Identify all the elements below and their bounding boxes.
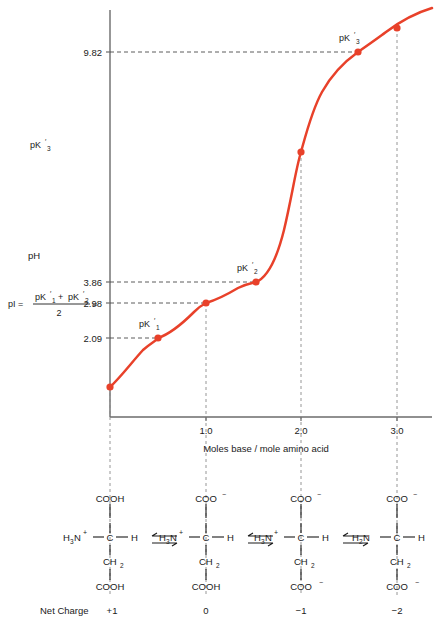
structure-1-amine-h: H [63,532,70,543]
structure-2-alpha-h: H [227,532,234,543]
structure-2-beta-sub: 2 [216,562,220,569]
curve-label-pk3-prime: ′ [354,31,356,38]
structure-3-bottom: COO − [290,579,323,592]
structure-2-top: COO − [195,491,226,504]
pi-formula: pI = pK ′ 1 + pK ′ 2 2 = [8,290,97,318]
structure-1-amine-charge: + [83,529,87,536]
structure-2-beta-group: CH [199,556,213,567]
curve-point-end [393,24,400,31]
pi-formula-num-right: pK [68,292,79,302]
structure-3-top-charge: − [317,491,321,498]
structure-1-amine-n: N [74,532,81,543]
pi-formula-equals: = [92,299,97,309]
structure-3-amine: H 3 N + [254,529,278,545]
structure-3-alpha-carbon: C [298,532,305,543]
pi-formula-plus: + [58,292,63,302]
plot-area: 9.82 3.86 2.98 2.09 1.0 2.0 3.0 Moles ba… [8,8,432,596]
net-charge-row: Net Charge +1 0 −1 −2 [40,605,402,616]
structure-4-top: COO − [386,491,417,504]
pi-formula-num-left-prime: ′ [50,290,52,297]
curve-point-pk1 [154,334,161,341]
curve-label-pk1-prime: ′ [154,317,156,324]
structure-1-bottom-group: COOH [96,581,125,592]
curve-label-pk1-base: pK [139,319,150,329]
curve-label-pk3-sub: 3 [356,38,360,45]
structure-2: COO − C H 3 N + H CH 2 COOH [159,491,234,592]
net-charge-label: Net Charge [40,605,89,616]
structure-2-bottom-group: COOH [192,581,221,592]
curve-label-pk1: pK ′ 1 [139,317,160,331]
structure-3-top-group: COO [290,493,312,504]
structure-3-bottom-charge: − [319,579,323,586]
net-charge-value-1: +1 [107,605,118,616]
pi-formula-lead: pI = [8,299,23,309]
titration-figure: 9.82 3.86 2.98 2.09 1.0 2.0 3.0 Moles ba… [0,0,445,627]
structure-4-amine-n: N [363,532,370,543]
curve-point-start [106,383,113,390]
y-tick-label-386: 3.86 [84,277,103,288]
structure-2-amine-h: H [159,532,166,543]
pi-formula-num-right-sub: 2 [85,297,89,304]
net-charge-value-2: 0 [203,605,208,616]
curve-label-pk2-prime: ′ [252,261,254,268]
structure-3-amine-h: H [254,532,261,543]
curve-label-pk2: pK ′ 2 [237,261,258,275]
structure-4-amine-h: H [352,532,359,543]
curve-label-pk2-sub: 2 [254,268,258,275]
curve-point-pi [202,299,209,306]
structure-4-top-group: COO [386,493,408,504]
structure-2-amine-charge: + [179,529,183,536]
structure-4-alpha-carbon: C [394,532,401,543]
curve-point-pk3 [354,48,361,55]
x-tick-label-3: 3.0 [390,425,403,436]
structure-2-top-charge: − [222,491,226,498]
structure-2-beta: CH 2 [199,556,220,569]
y-tick-label-982: 9.82 [84,47,103,58]
net-charge-value-3: −1 [296,605,307,616]
structure-4-top-charge: − [413,491,417,498]
x-tick-label-1: 1.0 [199,425,212,436]
structure-4-bottom: COO − [386,579,419,592]
structure-4-bottom-group: COO [386,581,408,592]
structure-1-beta-sub: 2 [120,562,124,569]
structure-3-alpha-h: H [322,532,329,543]
curve-label-pk2-base: pK [237,263,248,273]
structure-4-bottom-charge: − [415,579,419,586]
structure-1-alpha-h: H [131,532,138,543]
net-charge-value-4: −2 [392,605,403,616]
structure-3-amine-n: N [265,532,272,543]
structure-3-beta-group: CH [294,556,308,567]
structure-3-bottom-group: COO [290,581,312,592]
curve-label-pk3: pK ′ 3 [339,31,360,45]
pi-formula-denominator: 2 [56,308,61,318]
structure-3-amine-charge: + [274,529,278,536]
structure-2-amine-n: N [170,532,177,543]
curve-point-mid [297,148,304,155]
y-axis-label-pk3-sub: 3 [47,145,51,152]
pi-formula-num-left: pK [35,292,46,302]
structure-4-alpha-h: H [418,532,425,543]
curve-label-pk3-base: pK [339,33,350,43]
structure-3-beta: CH 2 [294,556,315,569]
x-axis-label: Moles base / mole amino acid [203,443,329,454]
structure-4-beta-group: CH [390,556,404,567]
y-axis-label-pk3: pK ′ 3 [30,138,51,152]
x-tick-label-2: 2.0 [294,425,307,436]
structure-4-beta: CH 2 [390,556,411,569]
pi-formula-num-left-sub: 1 [52,297,56,304]
y-tick-label-209: 2.09 [84,333,103,344]
structure-2-amine: H 3 N + [159,529,183,545]
curve-point-pk2 [252,278,259,285]
structure-4: COO − C H 2 N H CH 2 COO − [352,491,425,592]
structure-1-beta-group: CH [103,556,117,567]
structure-4-beta-sub: 2 [407,562,411,569]
structure-3-beta-sub: 2 [311,562,315,569]
structure-2-top-group: COO [195,493,217,504]
structure-1-beta: CH 2 [103,556,124,569]
curve-label-pk1-sub: 1 [156,324,160,331]
structure-3: COO − C H 3 N + H CH 2 COO − [254,491,329,592]
y-axis-label-pk3-base: pK [30,140,41,150]
y-axis-label-pk3-prime: ′ [45,138,47,145]
structure-2-alpha-carbon: C [203,532,210,543]
structure-1-amine: H 3 N + [63,529,87,545]
